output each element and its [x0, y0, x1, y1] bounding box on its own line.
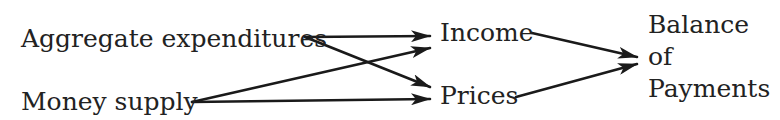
node-income: Income [440, 20, 534, 45]
arrow-income-to-bop [532, 33, 637, 57]
node-prices: Prices [440, 83, 518, 108]
node-money-supply: Money supply [21, 89, 198, 114]
flow-diagram: Aggregate expenditures Money supply Inco… [0, 0, 780, 120]
arrow-ms-to-prices [192, 99, 430, 102]
node-balance-line-2: of [648, 44, 672, 69]
node-balance-line-1: Balance [648, 12, 749, 37]
arrow-prices-to-bop [516, 64, 637, 97]
node-aggregate-expenditures: Aggregate expenditures [21, 26, 327, 51]
arrow-ms-to-income [192, 48, 430, 102]
node-balance-line-3: Payments [648, 76, 770, 101]
